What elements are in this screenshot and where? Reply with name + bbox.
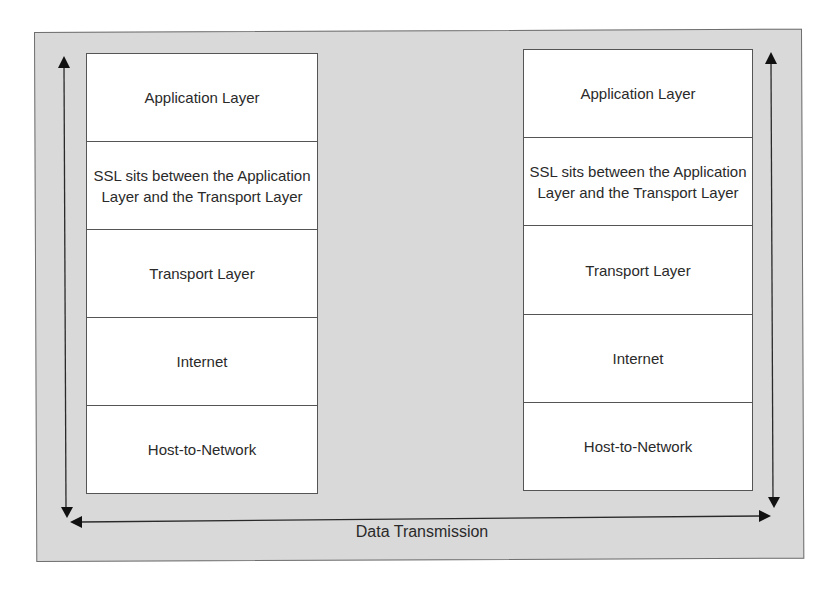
right-vertical-arrow-icon	[765, 52, 780, 508]
left-vertical-arrow-icon	[58, 56, 73, 518]
arrows-layer	[0, 0, 835, 590]
data-transmission-label: Data Transmission	[322, 523, 522, 541]
